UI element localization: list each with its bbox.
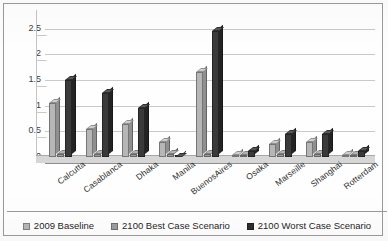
legend-label: 2100 Best Case Scenario — [122, 221, 230, 231]
bar-face — [57, 154, 64, 157]
bar-group — [159, 16, 196, 157]
bar[interactable] — [248, 151, 255, 157]
bar[interactable] — [122, 124, 129, 157]
bar[interactable] — [57, 154, 64, 157]
bar[interactable] — [314, 154, 321, 157]
bar[interactable] — [306, 142, 313, 157]
bar-face — [49, 103, 56, 157]
bar-face — [240, 155, 247, 157]
bar[interactable] — [277, 154, 284, 157]
bar-face — [130, 154, 137, 157]
legend-label: 2100 Worst Case Scenario — [258, 221, 371, 231]
bar-face — [314, 154, 321, 157]
bar-face — [212, 31, 219, 157]
bar[interactable] — [232, 155, 239, 157]
bar[interactable] — [94, 154, 101, 157]
bar[interactable] — [350, 155, 357, 157]
bar-top — [175, 153, 187, 157]
bar[interactable] — [49, 103, 56, 157]
bar-group — [196, 16, 233, 157]
x-tick-label: Marseille — [273, 159, 307, 188]
bar[interactable] — [269, 144, 276, 157]
chart-screenshot: 00.511.522.5 CalcuttaCasablancaDhakaMani… — [0, 0, 388, 241]
x-tick-label: Osaka — [244, 159, 270, 182]
bar[interactable] — [322, 134, 329, 157]
bar-face — [322, 134, 329, 157]
bar-face — [102, 93, 109, 157]
bar[interactable] — [285, 134, 292, 157]
bar-group — [269, 16, 306, 157]
bar[interactable] — [175, 157, 182, 158]
back-wall — [36, 10, 37, 157]
bar[interactable] — [342, 155, 349, 157]
x-tick-label: Shanghai — [308, 159, 343, 189]
bar-side — [219, 25, 223, 154]
bar-series-container — [45, 16, 375, 157]
x-axis: CalcuttaCasablancaDhakaManilaBuenosAires… — [45, 159, 385, 211]
bar-face — [159, 142, 166, 157]
bar[interactable] — [358, 151, 365, 157]
x-tick-label: Calcutta — [55, 159, 87, 186]
bar-face — [248, 151, 255, 157]
bar[interactable] — [240, 155, 247, 157]
bar[interactable] — [138, 108, 145, 157]
bar-group — [306, 16, 343, 157]
bar-face — [269, 144, 276, 157]
legend-label: 2009 Baseline — [34, 221, 94, 231]
bar-group — [232, 16, 269, 157]
bar-face — [94, 154, 101, 157]
legend-item[interactable]: 2100 Best Case Scenario — [111, 221, 230, 231]
bar-side — [109, 87, 113, 154]
plot-area — [45, 16, 375, 157]
bar[interactable] — [130, 154, 137, 157]
chart-frame: 00.511.522.5 CalcuttaCasablancaDhakaMani… — [3, 3, 383, 236]
x-tick-label: Manila — [171, 159, 197, 182]
bar-face — [167, 154, 174, 157]
legend-item[interactable]: 2100 Worst Case Scenario — [247, 221, 371, 231]
bar-group — [49, 16, 86, 157]
bar-group — [86, 16, 123, 157]
legend-swatch-icon — [111, 223, 118, 230]
bar-face — [358, 151, 365, 157]
bar[interactable] — [102, 93, 109, 157]
legend-swatch-icon — [23, 223, 30, 230]
legend-swatch-icon — [247, 223, 254, 230]
bar-face — [342, 155, 349, 157]
x-tick-label: Casablanca — [81, 159, 124, 195]
bar[interactable] — [196, 72, 203, 157]
bar-face — [277, 154, 284, 157]
bar[interactable] — [167, 154, 174, 157]
legend-item[interactable]: 2009 Baseline — [23, 221, 94, 231]
bar-side — [145, 102, 149, 154]
bar[interactable] — [86, 129, 93, 157]
bar-face — [86, 129, 93, 157]
bar-face — [122, 124, 129, 157]
bar[interactable] — [159, 142, 166, 157]
bar-face — [138, 108, 145, 157]
bar-side — [203, 66, 207, 154]
x-tick-label: Dhaka — [134, 159, 160, 182]
bar[interactable] — [212, 31, 219, 157]
bar-face — [306, 142, 313, 157]
x-tick-label: Rotterdam — [342, 159, 380, 191]
bar-side — [72, 74, 76, 154]
bar-face — [232, 155, 239, 157]
bar[interactable] — [65, 80, 72, 157]
bar-group — [342, 16, 379, 157]
bar-face — [285, 134, 292, 157]
bar-face — [65, 80, 72, 157]
bar-face — [350, 155, 357, 157]
bar-face — [196, 72, 203, 157]
bar[interactable] — [204, 154, 211, 157]
bar-side — [56, 97, 60, 154]
chart-legend: 2009 Baseline2100 Best Case Scenario2100… — [7, 211, 387, 240]
bar-group — [122, 16, 159, 157]
bar-face — [204, 154, 211, 157]
